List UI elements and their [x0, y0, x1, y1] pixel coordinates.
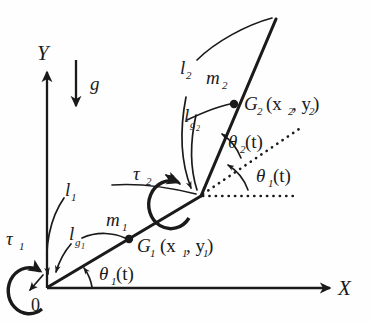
theta1-elbow-label: θ [256, 165, 265, 186]
tau1-label-subscript: 1 [19, 240, 25, 252]
l1-label-subscript: 1 [71, 191, 77, 203]
lg1-label: l [69, 223, 74, 244]
lg2-label: l [184, 105, 189, 126]
m1-label: m [106, 209, 120, 230]
lg1-label-subscript2: 1 [81, 242, 85, 251]
tau1-label-group: τ 1 [6, 228, 25, 252]
theta2-label: θ [228, 131, 237, 152]
l1-label-group: l 1 [65, 179, 77, 203]
theta1-elbow-label-arg: (t) [273, 165, 291, 187]
y-axis-label: Y [37, 41, 51, 65]
theta1-base-label: θ [99, 263, 108, 284]
theta2-label-group: θ 2 (t) [228, 131, 263, 155]
theta2-label-arg: (t) [245, 131, 263, 153]
elbow-joint-torque-arc-group [149, 175, 189, 229]
g1-point-label-group: G 1 (x 1 , y 1 ) [137, 235, 213, 259]
g1-coords-open: (x [160, 235, 176, 257]
y-axis-label-group: Y [37, 41, 51, 65]
g2-coords-open: (x [266, 93, 282, 115]
g1-coords-close: ) [207, 235, 213, 257]
two-link-manipulator-diagram: Y X 0 g τ 1 τ 2 l 1 l [0, 0, 370, 323]
m2-label-subscript: 2 [222, 79, 228, 91]
g2-point-label-group: G 2 (x 2 , y 2 ) [244, 93, 319, 117]
gravity-label: g [90, 73, 100, 94]
theta1-base-label-arg: (t) [116, 263, 134, 285]
tau2-label: τ [133, 163, 141, 184]
theta1-base-angle-arc [84, 268, 92, 287]
tau1-arrow-tail [30, 275, 43, 290]
theta1-base-label-group: θ 1 (t) [99, 263, 134, 287]
m1-leader-curve [82, 233, 125, 238]
theta1-elbow-label-group: θ 1 (t) [256, 165, 291, 189]
g2-label: G [244, 93, 258, 114]
origin-label-group: 0 [31, 295, 40, 315]
origin-label: 0 [31, 295, 40, 315]
l1-label: l [65, 179, 70, 200]
l2-label: l [180, 57, 185, 78]
lg2-label-group: l g 2 [184, 105, 200, 133]
g1-label-subscript: 1 [150, 247, 156, 259]
lg1-leader-curve [56, 244, 71, 272]
m2-label: m [206, 67, 220, 88]
x-axis-label-group: X [337, 276, 352, 300]
m1-label-subscript: 1 [122, 221, 128, 233]
tau2-label-subscript: 2 [146, 175, 152, 187]
l1-leader-curve [47, 198, 64, 274]
g2-coords-close: ) [313, 93, 319, 115]
tau2-label-group: τ 2 [133, 163, 152, 187]
g2-label-subscript: 2 [257, 105, 263, 117]
gravity-label-group: g [90, 73, 100, 94]
theta1-elbow-angle-arc [228, 165, 248, 190]
m2-label-group: m 2 [206, 67, 228, 91]
l2-label-subscript: 2 [186, 69, 192, 81]
figure-canvas: Y X 0 g τ 1 τ 2 l 1 l [0, 0, 370, 323]
link-1-center-of-mass-dot [125, 235, 133, 243]
tau1-label: τ [6, 228, 14, 249]
m1-label-group: m 1 [106, 209, 128, 233]
g1-label: G [137, 235, 151, 256]
lg2-label-subscript2: 2 [196, 124, 200, 133]
l2-label-group: l 2 [180, 57, 192, 81]
x-axis-label: X [337, 276, 352, 300]
link-2-center-of-mass-dot [230, 100, 238, 108]
